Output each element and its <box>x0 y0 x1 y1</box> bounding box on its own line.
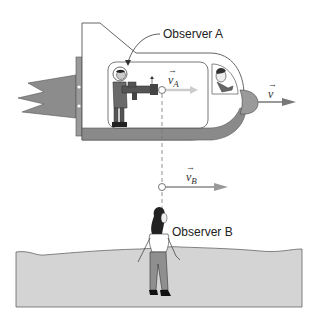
projectile-b <box>159 184 166 191</box>
observer-b-label: Observer B <box>172 226 233 238</box>
spaceship-nose <box>240 90 258 114</box>
vector-arrow-icon: → <box>186 163 195 172</box>
vector-v-label: →v <box>268 88 273 100</box>
observer-a-label: Observer A <box>163 28 223 40</box>
vector-v-b-label: →vB <box>186 171 197 186</box>
vector-arrow-icon: → <box>268 80 277 89</box>
relative-velocity-diagram <box>0 0 318 322</box>
projectile-a <box>159 87 166 94</box>
engine-plate <box>76 57 82 136</box>
vector-arrow-icon: → <box>168 66 177 75</box>
rocket-flame-icon <box>18 75 76 118</box>
vector-v-a-label: →vA <box>168 74 179 89</box>
